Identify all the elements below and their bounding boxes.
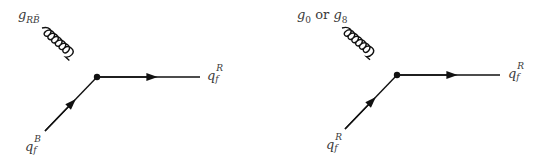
right-outgoing-quark-label: qRf bbox=[508, 67, 525, 80]
incoming-arrow-icon bbox=[345, 101, 372, 129]
incoming-arrow-icon bbox=[45, 103, 72, 131]
label-subscript: 8 bbox=[342, 15, 348, 25]
label-connector: or bbox=[315, 7, 329, 22]
right-incoming-quark-label: qRf bbox=[326, 138, 343, 151]
left-gluon-label: gRB̄ bbox=[18, 8, 40, 21]
left-diagram bbox=[38, 25, 200, 131]
label-superscript: R bbox=[216, 64, 223, 73]
label-subscript: f bbox=[215, 75, 218, 84]
label-subscript: f bbox=[334, 144, 337, 153]
label-subscript: f bbox=[516, 73, 519, 82]
feynman-diagrams-canvas bbox=[0, 0, 538, 159]
right-gluon-label: g0 or g8 bbox=[297, 8, 347, 21]
label-subscript: RB̄ bbox=[26, 15, 39, 25]
left-outgoing-quark-label: qRf bbox=[207, 69, 224, 82]
label-subscript: f bbox=[33, 146, 36, 155]
right-diagram bbox=[338, 25, 500, 129]
label-subscript: 0 bbox=[305, 15, 311, 25]
label-superscript: R bbox=[335, 133, 342, 142]
label-superscript: R bbox=[517, 62, 524, 71]
gluon-line bbox=[338, 25, 377, 60]
vertex-dot bbox=[394, 72, 400, 78]
gluon-line bbox=[38, 25, 76, 61]
left-incoming-quark-label: qBf bbox=[25, 140, 42, 153]
vertex-dot bbox=[94, 74, 100, 80]
label-base: g bbox=[333, 7, 341, 22]
label-superscript: B bbox=[34, 135, 41, 144]
